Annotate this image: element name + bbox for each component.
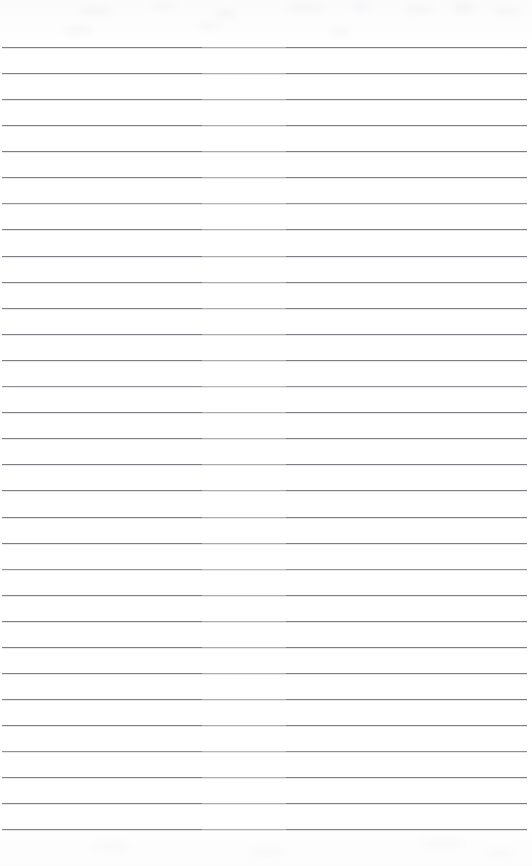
ruled-line bbox=[2, 777, 527, 778]
ruled-line bbox=[2, 673, 527, 674]
ruled-line bbox=[2, 725, 527, 726]
ruled-line bbox=[2, 308, 527, 309]
ruled-lines-group bbox=[0, 0, 532, 866]
ruled-line bbox=[2, 517, 527, 518]
ruled-line bbox=[2, 543, 527, 544]
ruled-line bbox=[2, 334, 527, 335]
ruled-line bbox=[2, 699, 527, 700]
ruled-line bbox=[2, 177, 527, 178]
ruled-line bbox=[2, 464, 527, 465]
ruled-line bbox=[2, 803, 527, 804]
ruled-line bbox=[2, 229, 527, 230]
ruled-line bbox=[2, 490, 527, 491]
ruled-line bbox=[2, 412, 527, 413]
ruled-line bbox=[2, 282, 527, 283]
ruled-line bbox=[2, 360, 527, 361]
ruled-line bbox=[2, 438, 527, 439]
ruled-line bbox=[2, 73, 527, 74]
ruled-line bbox=[2, 621, 527, 622]
ruled-line bbox=[2, 151, 527, 152]
ruled-line bbox=[2, 647, 527, 648]
ruled-line bbox=[2, 203, 527, 204]
ruled-line bbox=[2, 569, 527, 570]
ruled-line bbox=[2, 99, 527, 100]
ruled-line bbox=[2, 829, 527, 830]
scanned-page bbox=[0, 0, 532, 866]
ruled-line bbox=[2, 595, 527, 596]
ruled-line bbox=[2, 47, 527, 48]
ruled-line bbox=[2, 125, 527, 126]
ruled-line bbox=[2, 751, 527, 752]
ruled-line bbox=[2, 256, 527, 257]
ruled-line bbox=[2, 386, 527, 387]
